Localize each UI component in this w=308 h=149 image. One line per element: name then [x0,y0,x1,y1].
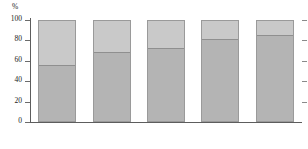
stacked-bar [93,20,131,122]
stacked-bar [147,20,185,122]
bar-segment-lower [39,65,75,121]
y-axis-tick-mark-right [302,81,307,82]
y-axis-tick-label: 80 [15,34,23,43]
y-axis-tick-mark-right [302,102,307,103]
stacked-bar [38,20,76,122]
y-axis-tick-label: 40 [15,75,23,84]
bar-series-container: 20182019202020212022 [30,0,302,149]
y-axis-tick-label: 60 [15,55,23,64]
bar-segment-lower [148,48,184,121]
stacked-bar-chart: % 100806040200 20182019202020212022 [0,0,308,149]
y-axis-tick-mark-right [302,20,307,21]
stacked-bar [201,20,239,122]
y-axis-tick-label: 100 [11,14,22,23]
y-axis-tick-mark-right [302,40,307,41]
y-axis-tick-label: 20 [15,96,23,105]
y-axis-tick-label: 0 [18,116,22,125]
bar-segment-lower [257,35,293,121]
stacked-bar [256,20,294,122]
bar-segment-lower [94,52,130,121]
bar-segment-lower [202,39,238,121]
y-axis-tick-mark-right [302,61,307,62]
plot-area: 100806040200 20182019202020212022 [0,0,308,149]
